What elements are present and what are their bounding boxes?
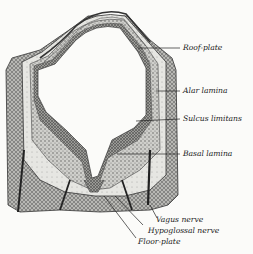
medulla-section-diagram: Roof-plate Alar lamina Sulcus limitans B…	[0, 0, 253, 254]
label-basal-lamina: Basal lamina	[183, 150, 232, 158]
label-floor-plate: Floor-plate	[138, 238, 180, 246]
label-sulcus-limitans: Sulcus limitans	[183, 115, 242, 123]
label-roof-plate: Roof-plate	[183, 44, 222, 52]
section-illustration	[0, 0, 253, 254]
label-hypoglossal-nerve: Hypoglossal nerve	[148, 227, 219, 235]
label-alar-lamina: Alar lamina	[183, 87, 228, 95]
label-vagus-nerve: Vagus nerve	[156, 216, 203, 224]
